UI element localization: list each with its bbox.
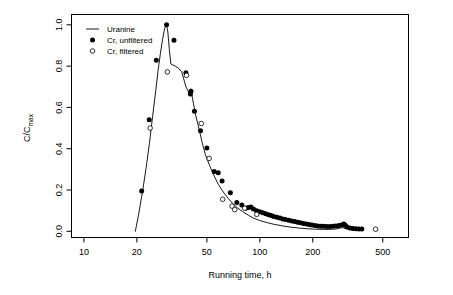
data-point-filled: [164, 22, 169, 27]
data-point-open: [165, 70, 170, 75]
y-tick-label: 0.8: [54, 60, 64, 73]
legend-marker-filled-circle: [90, 38, 95, 43]
y-tick-label: 0.4: [54, 142, 64, 155]
x-tick-label: 200: [305, 247, 320, 257]
data-point-open: [148, 126, 153, 131]
uranine-cr-breakthrough-chart: 102050100200500 0.00.20.40.60.81.0 Runni…: [0, 0, 453, 295]
data-point-open: [373, 227, 378, 232]
data-point-filled: [192, 109, 197, 114]
data-point-open: [242, 206, 247, 211]
y-tick-label: 0.2: [54, 184, 64, 197]
data-point-filled: [234, 200, 239, 205]
data-point-open: [254, 212, 259, 217]
x-axis-title: Running time, h: [208, 270, 271, 280]
chart-container: 102050100200500 0.00.20.40.60.81.0 Runni…: [0, 0, 453, 295]
data-point-open: [232, 207, 237, 212]
data-point-filled: [139, 189, 144, 194]
data-point-filled: [228, 190, 233, 195]
y-tick-label: 0.0: [54, 225, 64, 238]
data-point-filled: [147, 117, 152, 122]
y-tick-label: 1.0: [54, 19, 64, 32]
y-tick-label: 0.6: [54, 101, 64, 114]
legend-marker-open-circle: [90, 49, 95, 54]
data-point-open: [220, 197, 225, 202]
data-point-filled: [216, 170, 221, 175]
x-tick-label: 10: [79, 247, 89, 257]
data-point-open: [199, 121, 204, 126]
x-tick-label: 50: [202, 247, 212, 257]
data-point-filled: [198, 128, 203, 133]
data-point-filled: [171, 38, 176, 43]
x-tick-label: 20: [132, 247, 142, 257]
data-point-filled: [188, 89, 193, 94]
data-point-filled: [154, 58, 159, 63]
data-point-filled: [204, 146, 209, 151]
x-tick-label: 100: [252, 247, 267, 257]
data-point-open: [184, 73, 189, 78]
legend-label: Uranine: [107, 25, 136, 34]
legend-label: Cr, filtered: [107, 47, 143, 56]
legend-label: Cr, unfiltered: [107, 36, 152, 45]
data-point-filled: [220, 178, 225, 183]
x-tick-label: 500: [375, 247, 390, 257]
data-point-filled: [359, 227, 364, 232]
data-point-open: [207, 156, 212, 161]
